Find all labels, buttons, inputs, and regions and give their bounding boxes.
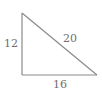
triangle-diagram: 12 20 16 (0, 0, 102, 90)
hypotenuse-side (22, 13, 97, 75)
hypotenuse-label: 20 (63, 33, 77, 44)
vertical-side-label: 12 (4, 38, 18, 49)
base-side-label: 16 (53, 79, 67, 90)
